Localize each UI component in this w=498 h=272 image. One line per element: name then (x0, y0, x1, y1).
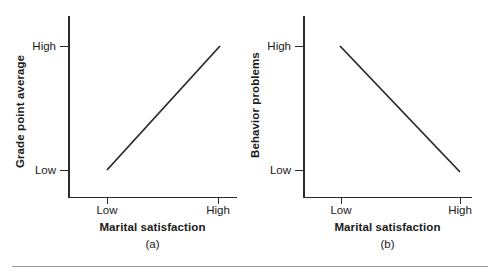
bottom-divider (12, 266, 488, 267)
panel-b-plot-area (249, 0, 498, 250)
panel-b-trend-line (340, 46, 460, 172)
panel-a-plot-area (0, 0, 249, 250)
figure-two-panel-scatter-trends: High Low Low High Grade point average Ma… (0, 0, 498, 272)
panel-a: High Low Low High Grade point average Ma… (0, 0, 249, 250)
panel-a-trend-line (107, 46, 220, 170)
panel-b: High Low Low High Behavior problems Mari… (249, 0, 498, 250)
